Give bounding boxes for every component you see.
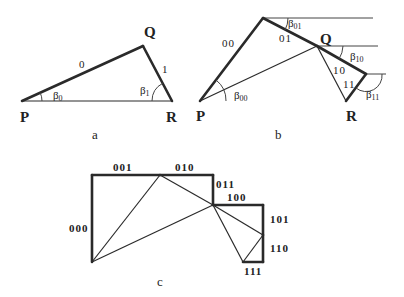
edge-label-110: 110 [270,242,289,254]
edge-label-001: 001 [113,161,133,173]
edge-label-000: 000 [69,222,89,234]
edge-label-010: 010 [175,161,195,173]
edge-label-11: 11 [343,78,356,90]
edge-label-01: 01 [279,32,292,44]
diagonal-1 [92,175,160,262]
vertex-label-P: P [196,108,205,124]
angle-arc-beta-1 [152,83,163,101]
angle-label-beta-00: β00 [234,89,248,103]
diagonal-2 [92,205,213,262]
angle-arc-beta-0 [40,93,42,101]
caption-a: a [92,127,98,142]
edge-label-101: 101 [270,213,290,225]
diagonal-6 [243,235,263,262]
caption-b: b [275,127,282,142]
angle-label-beta-1: β1 [140,84,150,98]
recursive-triangle-diagram: Q P R 0 1 β0 β1 a Q P R 00 01 10 11 β00 … [0,0,404,297]
diagonal-3 [160,175,213,205]
panel-a: Q P R 0 1 β0 β1 a [20,24,177,142]
angle-label-beta-0: β0 [53,89,63,103]
edge-label-10: 10 [333,64,346,76]
vertex-label-R: R [346,108,357,124]
edge-label-1: 1 [162,63,169,75]
edge-label-0: 0 [79,58,86,70]
caption-c: c [157,274,163,289]
vertex-label-P: P [20,109,29,125]
angle-arc-beta-10 [339,46,343,59]
edge-PQ [200,46,317,101]
edge-label-00: 00 [222,37,235,49]
vertex-label-R: R [166,109,177,125]
angle-label-beta-01: β01 [288,17,302,31]
edge-label-100: 100 [227,191,247,203]
edge-00 [200,18,263,101]
edge-label-011: 011 [216,178,235,190]
edge-label-111: 111 [244,265,262,277]
vertex-label-Q: Q [320,31,332,47]
panel-c: 000 001 010 011 100 101 110 111 c [69,161,290,289]
vertex-label-Q: Q [144,24,156,40]
panel-b: Q P R 00 01 10 11 β00 β01 β10 β11 b [196,17,386,142]
angle-label-beta-10: β10 [350,50,364,64]
